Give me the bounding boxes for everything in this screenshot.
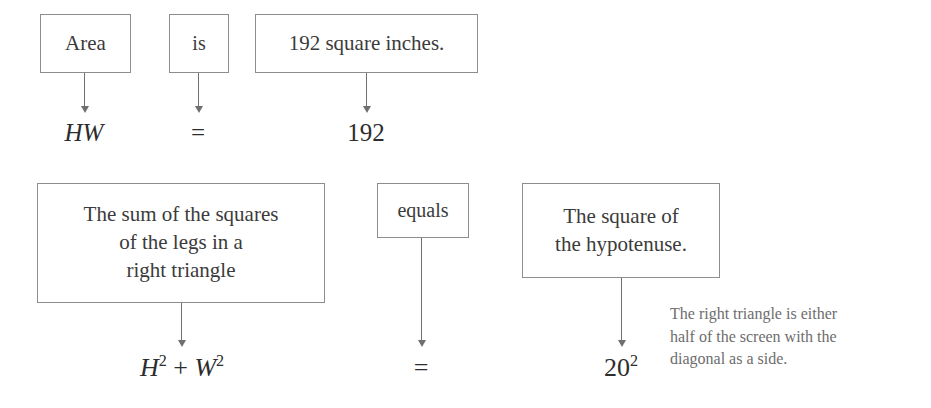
phrase-box-192-square-inches: 192 square inches. <box>255 14 478 73</box>
phrase-box-sum-of-squares-label: The sum of the squares of the legs in a … <box>78 201 285 284</box>
arrow-head <box>81 106 89 113</box>
phrase-box-sum-of-squares: The sum of the squares of the legs in a … <box>37 183 325 303</box>
phrase-box-square-of-hypotenuse: The square of the hypotenuse. <box>522 183 720 278</box>
symbol-h-base: H <box>140 353 159 382</box>
arrow-head <box>363 106 371 113</box>
phrase-box-is: is <box>169 14 229 73</box>
symbol-h-exponent: 2 <box>159 352 167 369</box>
phrase-box-is-label: is <box>186 30 211 56</box>
arrow-stem <box>421 238 422 341</box>
phrase-box-square-of-hypotenuse-label: The square of the hypotenuse. <box>549 203 693 258</box>
arrow-head <box>195 106 203 113</box>
arrow-head <box>618 340 626 347</box>
arrow-head <box>418 340 426 347</box>
phrase-box-equals-label: equals <box>391 197 454 223</box>
phrase-box-equals: equals <box>377 183 469 238</box>
symbol-equals-sign-row2: = <box>371 355 471 381</box>
arrow-stem <box>181 303 182 341</box>
symbol-hw: HW <box>34 120 134 145</box>
arrow-stem <box>84 73 85 107</box>
symbol-plus-operator: + <box>167 353 195 382</box>
symbol-w-base: W <box>194 353 216 382</box>
arrow-head <box>178 340 186 347</box>
diagram-canvas: Area is 192 square inches. HW = 192 The … <box>0 0 931 408</box>
symbol-w-exponent: 2 <box>216 352 224 369</box>
symbol-20-base: 20 <box>604 353 630 382</box>
phrase-box-192-square-inches-label: 192 square inches. <box>283 30 451 58</box>
symbol-20-squared: 202 <box>571 355 671 381</box>
arrow-stem <box>621 278 622 341</box>
symbol-192: 192 <box>316 120 416 145</box>
arrow-stem <box>198 73 199 107</box>
symbol-h2-plus-w2: H2 + W2 <box>107 355 257 381</box>
symbol-20-exponent: 2 <box>630 352 638 369</box>
arrow-stem <box>366 73 367 107</box>
phrase-box-area-label: Area <box>59 30 112 58</box>
right-triangle-note: The right triangle is either half of the… <box>670 303 922 371</box>
phrase-box-area: Area <box>40 14 131 73</box>
symbol-equals-sign-row1: = <box>148 120 248 145</box>
